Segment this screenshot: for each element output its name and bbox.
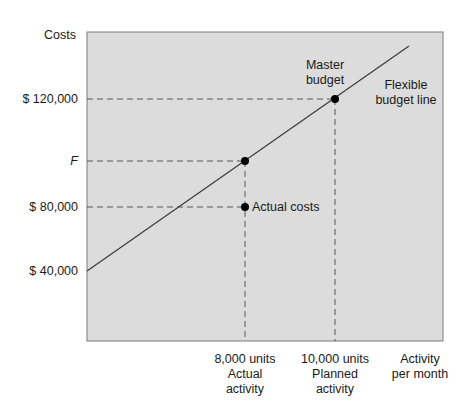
- actual-costs-point: [241, 203, 249, 211]
- flexible-budget-line1: Flexible: [367, 78, 445, 93]
- x-axis-title: Activity per month: [380, 352, 460, 382]
- x-tick-8000: 8,000 units Actual activity: [200, 352, 290, 397]
- x-tick-10000-line2: Planned: [290, 367, 380, 382]
- x-tick-8000-line1: 8,000 units: [200, 352, 290, 367]
- flexible-budget-line2: budget line: [367, 93, 445, 108]
- y-tick-40000: $ 40,000: [0, 264, 78, 279]
- x-tick-10000-line3: activity: [290, 382, 380, 397]
- master-budget-line2: budget: [297, 73, 353, 88]
- x-tick-10000: 10,000 units Planned activity: [290, 352, 380, 397]
- flexible-budget-point: [241, 157, 249, 165]
- actual-costs-label: Actual costs: [252, 200, 319, 215]
- y-axis-title: Costs: [44, 28, 76, 43]
- y-tick-120000: $ 120,000: [0, 92, 78, 107]
- flexible-budget-label: Flexible budget line: [367, 78, 445, 108]
- y-tick-80000: $ 80,000: [0, 200, 78, 215]
- master-budget-label: Master budget: [297, 58, 353, 88]
- x-tick-10000-line1: 10,000 units: [290, 352, 380, 367]
- x-axis-title-line1: Activity: [380, 352, 460, 367]
- master-budget-point: [331, 95, 339, 103]
- x-tick-8000-line3: activity: [200, 382, 290, 397]
- x-axis-title-line2: per month: [380, 367, 460, 382]
- master-budget-line1: Master: [297, 58, 353, 73]
- y-tick-F: F: [0, 154, 78, 169]
- x-tick-8000-line2: Actual: [200, 367, 290, 382]
